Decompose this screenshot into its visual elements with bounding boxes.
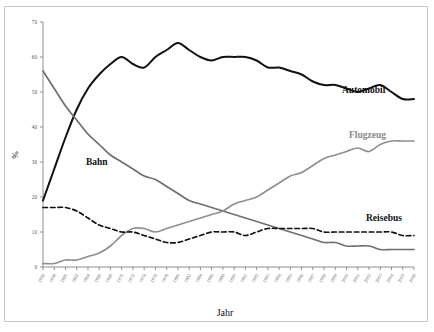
- y-tick-label: 60: [32, 54, 38, 60]
- x-axis-title: Jahr: [217, 307, 234, 318]
- x-tick-label: 1986: [206, 272, 215, 283]
- x-tick-label: 2001: [352, 272, 361, 283]
- x-tick-label: 1980: [172, 272, 181, 283]
- x-tick-label: 2006: [408, 272, 417, 283]
- x-tick-label: 1958: [48, 272, 57, 283]
- x-tick-label: 1996: [296, 272, 305, 283]
- series-label-bahn: Bahn: [86, 157, 108, 167]
- x-tick-label: 2000: [340, 272, 349, 283]
- y-axis-label: %: [10, 151, 20, 159]
- x-tick-label: 1993: [262, 272, 271, 283]
- x-tick-label: 1968: [104, 272, 113, 283]
- x-tick-label: 1997: [307, 272, 316, 283]
- x-tick-label: 1984: [194, 272, 203, 283]
- x-tick-label: 1982: [183, 272, 192, 283]
- y-tick-label: 10: [32, 229, 38, 235]
- x-tick-label: 2005: [397, 272, 406, 283]
- y-tick-label: 30: [32, 159, 38, 165]
- x-tick-label: 1991: [239, 272, 248, 283]
- chart-svg: 010203040506070 195619581960196219641966…: [0, 0, 434, 332]
- x-tick-label: 1992: [251, 272, 260, 283]
- y-tick-label: 40: [32, 124, 38, 130]
- x-tick-label: 1976: [149, 272, 158, 283]
- series-label-flugzeug: Flugzeug: [349, 130, 386, 140]
- x-tick-label: 2004: [385, 272, 394, 283]
- y-tick-label: 20: [32, 194, 38, 200]
- x-tick-label: 1956: [37, 272, 46, 283]
- series-label-automobil: Automobil: [342, 85, 386, 95]
- x-tick-label: 1960: [59, 272, 68, 283]
- x-tick-label: 1966: [93, 272, 102, 283]
- x-tick-label: 2002: [363, 272, 372, 283]
- x-tick-label: 1999: [329, 272, 338, 283]
- series-lines: [43, 43, 414, 264]
- y-axis-ticks: 010203040506070: [32, 19, 43, 270]
- x-tick-label: 1990: [228, 272, 237, 283]
- series-line-automobil: [43, 43, 414, 201]
- x-tick-label: 1994: [273, 272, 282, 283]
- x-tick-label: 1970: [116, 272, 125, 283]
- y-tick-label: 50: [32, 89, 38, 95]
- x-tick-label: 2003: [374, 272, 383, 283]
- x-tick-label: 1964: [82, 272, 91, 283]
- y-tick-label: 0: [34, 264, 37, 270]
- y-tick-label: 70: [32, 19, 38, 25]
- x-tick-label: 1988: [217, 272, 226, 283]
- x-tick-label: 1978: [161, 272, 170, 283]
- series-label-reisebus: Reisebus: [366, 213, 402, 223]
- x-tick-label: 1995: [284, 272, 293, 283]
- x-tick-label: 1998: [318, 272, 327, 283]
- x-tick-label: 1972: [127, 272, 136, 283]
- x-tick-label: 1962: [71, 272, 80, 283]
- x-axis-tick-labels: 1956195819601962196419661968197019721974…: [37, 272, 417, 283]
- chart-figure: 010203040506070 195619581960196219641966…: [0, 0, 434, 332]
- x-tick-label: 1974: [138, 272, 147, 283]
